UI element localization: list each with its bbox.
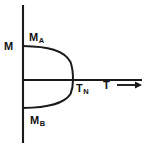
curve-upper-branch-ma xyxy=(23,46,73,80)
label-ma-subscript: A xyxy=(39,36,44,45)
magnetization-temperature-figure: M MA MB TN T xyxy=(0,0,147,149)
label-t-base: T xyxy=(103,79,110,91)
label-ma-base: M xyxy=(29,31,38,43)
label-lower-branch-mb: MB xyxy=(30,111,45,128)
label-tn-subscript: N xyxy=(83,87,88,96)
label-m-base: M xyxy=(4,40,13,52)
plot-canvas xyxy=(0,0,147,149)
label-magnetization-axis: M xyxy=(4,37,14,54)
label-temperature-axis: T xyxy=(103,76,110,93)
label-neel-temperature: TN xyxy=(76,79,89,96)
label-tn-base: T xyxy=(76,82,83,94)
label-mb-subscript: B xyxy=(40,119,45,128)
temperature-direction-arrow-head xyxy=(135,82,142,89)
label-mb-base: M xyxy=(30,114,39,126)
curve-lower-branch-mb xyxy=(23,80,73,108)
label-upper-branch-ma: MA xyxy=(29,28,44,45)
